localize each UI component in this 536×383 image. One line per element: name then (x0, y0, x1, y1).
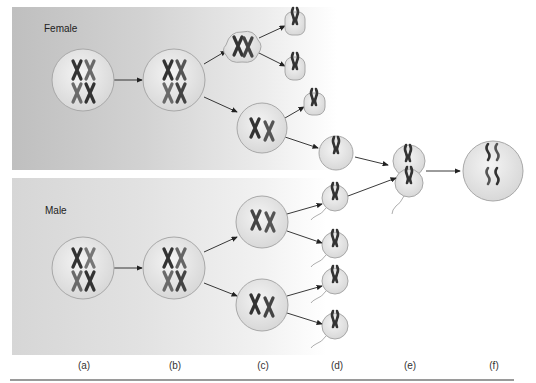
sperm-d4 (311, 311, 348, 348)
female-cell-c (237, 103, 287, 153)
arrow-female-polar1-polar2b (259, 53, 285, 66)
female-polar-body-1 (224, 31, 262, 62)
male-cell-b (143, 237, 205, 299)
sperm-d1 (311, 183, 348, 220)
female-cell-a (52, 49, 114, 111)
arrow-male-c1-d1 (287, 204, 322, 214)
arrow-male-c1-d2 (287, 231, 322, 243)
zygote-f (463, 141, 523, 201)
arrow-male-c2-d3 (287, 286, 322, 296)
stage-label-f: (f) (489, 360, 498, 371)
arrow-sperm-zygote (348, 178, 396, 196)
stage-label-c: (c) (257, 360, 269, 371)
male-cell-a (52, 237, 114, 299)
fertilization-e (392, 145, 425, 214)
stage-label-a: (a) (78, 360, 90, 371)
female-polar-body-2c (304, 89, 325, 115)
sperm-d3 (311, 266, 348, 303)
sperm-tail (311, 208, 326, 220)
arrow-male-b-c2 (204, 283, 237, 296)
stage-label-b: (b) (169, 360, 181, 371)
male-cell-c2 (236, 279, 288, 331)
sperm-tail (311, 255, 326, 267)
arrow-female-c-polar3 (285, 107, 304, 118)
sperm-d2 (311, 230, 348, 267)
arrow-egg-zygote (355, 157, 388, 165)
female-polar-body-2b (285, 53, 305, 80)
sperm-tail (392, 196, 404, 214)
meiosis-fertilization-diagram (0, 0, 536, 383)
arrow-female-b-c (204, 97, 237, 112)
stage-label-e: (e) (404, 360, 416, 371)
stage-label-d: (d) (331, 360, 343, 371)
female-cell-b (143, 49, 205, 111)
sperm-tail (311, 336, 326, 348)
bottom-divider (10, 379, 514, 381)
female-polar-body-2a (285, 8, 305, 35)
arrow-female-b-polar1 (204, 51, 226, 64)
arrow-male-b-c1 (204, 237, 237, 252)
arrow-female-polar1-polar2a (259, 26, 285, 38)
sperm-tail (311, 291, 326, 303)
arrow-male-c2-d4 (287, 313, 322, 324)
male-cell-c1 (236, 196, 288, 248)
female-egg-d (319, 136, 353, 170)
arrow-female-c-egg (285, 137, 318, 148)
